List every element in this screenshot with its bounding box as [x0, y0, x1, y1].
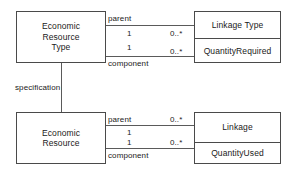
multiplicity-type-parent-source: 1: [127, 29, 132, 38]
association-role-label-type-component: component: [108, 59, 148, 68]
class-name-linkage-type: Linkage Type: [212, 20, 264, 31]
class-attribute-quantity-used: QuantityUsed: [211, 148, 264, 159]
association-role-label-type-parent: parent: [108, 14, 131, 23]
class-name-economic-resource: Economic Resource: [42, 128, 80, 149]
association-role-label-instance-parent: parent: [108, 115, 131, 124]
class-name-linkage: Linkage: [222, 122, 252, 133]
association-line-instance-component: [106, 148, 194, 149]
association-line-specification: [61, 63, 62, 112]
uml-class-diagram: Economic Resource Type Linkage Type Quan…: [0, 0, 294, 174]
class-title-section: Economic Resource: [17, 113, 105, 163]
multiplicity-type-component-source: 1: [127, 43, 132, 52]
class-box-linkage[interactable]: Linkage QuantityUsed: [194, 112, 281, 164]
multiplicity-type-parent-target: 0..*: [170, 29, 182, 38]
association-role-label-instance-component: component: [108, 151, 148, 160]
class-title-section: Economic Resource Type: [17, 12, 105, 62]
multiplicity-instance-component-source: 1: [127, 138, 132, 147]
multiplicity-instance-component-target: 0..*: [170, 138, 182, 147]
class-name-economic-resource-type: Economic Resource Type: [42, 21, 80, 53]
association-role-label-specification: specification: [15, 83, 60, 92]
class-box-economic-resource-type[interactable]: Economic Resource Type: [16, 11, 106, 63]
association-line-type-parent: [106, 25, 194, 26]
association-line-instance-parent: [106, 125, 194, 126]
class-box-linkage-type[interactable]: Linkage Type QuantityRequired: [194, 11, 281, 63]
multiplicity-instance-parent-target: 0..*: [170, 115, 182, 124]
class-attributes-section: QuantityRequired: [195, 39, 280, 63]
class-attributes-section: QuantityUsed: [195, 143, 280, 164]
multiplicity-instance-parent-source: 1: [127, 128, 132, 137]
class-title-section: Linkage: [195, 113, 280, 142]
multiplicity-type-component-target: 0..*: [170, 47, 182, 56]
class-title-section: Linkage Type: [195, 12, 280, 38]
association-line-type-component: [106, 56, 194, 57]
class-box-economic-resource[interactable]: Economic Resource: [16, 112, 106, 164]
class-attribute-quantity-required: QuantityRequired: [204, 46, 272, 57]
